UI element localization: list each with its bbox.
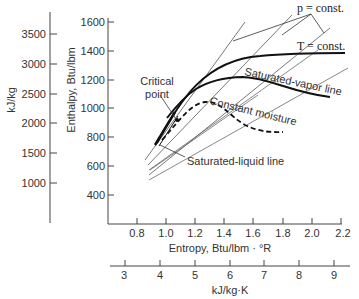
y-tick-1400: 1400 bbox=[81, 45, 105, 57]
secondary-x-axis: 3 4 5 6 7 8 9 kJ/kg·K bbox=[110, 260, 350, 296]
x2-tick-4: 4 bbox=[157, 269, 163, 281]
primary-y-axis: 1600 1400 1200 1000 800 600 400 Enthalpy… bbox=[65, 16, 114, 224]
primary-x-axis: 0.8 1.0 1.2 1.4 1.6 1.8 2.0 2.2 Entropy,… bbox=[108, 218, 351, 254]
y2-tick-3500: 3500 bbox=[22, 28, 46, 40]
x2-tick-5: 5 bbox=[192, 269, 198, 281]
x-tick-1.6: 1.6 bbox=[245, 227, 260, 239]
p-const-leader-3 bbox=[311, 14, 324, 33]
annotations: p = const. T = const. Saturated-vapor li… bbox=[140, 1, 345, 167]
y2-tick-3000: 3000 bbox=[22, 58, 46, 70]
x-tick-2.2: 2.2 bbox=[335, 227, 350, 239]
mollier-chart: 3500 3000 2500 2000 1500 1000 kJ/kg 1600… bbox=[0, 0, 359, 299]
p-const-leader-2 bbox=[282, 14, 311, 35]
x-tick-2.0: 2.0 bbox=[304, 227, 319, 239]
x-tick-1.4: 1.4 bbox=[216, 227, 231, 239]
p-const-leader-1 bbox=[233, 14, 311, 41]
y-tick-600: 600 bbox=[87, 160, 105, 172]
x2-tick-7: 7 bbox=[261, 269, 267, 281]
y-tick-800: 800 bbox=[87, 131, 105, 143]
p-const-line-2 bbox=[148, 15, 292, 165]
y-tick-1200: 1200 bbox=[81, 74, 105, 86]
x2-tick-9: 9 bbox=[331, 269, 337, 281]
critical-point-label-2: point bbox=[145, 88, 169, 100]
x2-axis-title: kJ/kg·K bbox=[212, 284, 249, 296]
y2-tick-1500: 1500 bbox=[22, 147, 46, 159]
sat-liquid-label: Saturated-liquid line bbox=[187, 155, 284, 167]
x-tick-0.8: 0.8 bbox=[129, 227, 144, 239]
x2-tick-6: 6 bbox=[227, 269, 233, 281]
sat-vapor-label: Saturated-vapor line bbox=[244, 65, 343, 97]
x2-tick-3: 3 bbox=[121, 269, 127, 281]
x2-tick-8: 8 bbox=[296, 269, 302, 281]
const-moisture-label: Constant moisture bbox=[209, 94, 299, 127]
y-tick-400: 400 bbox=[87, 189, 105, 201]
y2-tick-2500: 2500 bbox=[22, 88, 46, 100]
x-tick-1.0: 1.0 bbox=[158, 227, 173, 239]
y-tick-1000: 1000 bbox=[81, 102, 105, 114]
y2-axis-title: kJ/kg bbox=[5, 87, 17, 113]
y-axis-title: Enthalpy, Btu/lbm bbox=[65, 47, 77, 132]
x-tick-1.2: 1.2 bbox=[187, 227, 202, 239]
x-axis-title: Entropy, Btu/lbm · °R bbox=[169, 242, 272, 254]
y2-tick-2000: 2000 bbox=[22, 117, 46, 129]
t-const-label: T = const. bbox=[297, 39, 345, 53]
p-const-label: p = const. bbox=[297, 1, 344, 15]
critical-point-label-1: Critical bbox=[140, 75, 174, 87]
secondary-y-axis: 3500 3000 2500 2000 1500 1000 kJ/kg bbox=[5, 12, 57, 223]
x-tick-1.8: 1.8 bbox=[275, 227, 290, 239]
y2-tick-1000: 1000 bbox=[22, 177, 46, 189]
y-tick-1600: 1600 bbox=[81, 16, 105, 28]
